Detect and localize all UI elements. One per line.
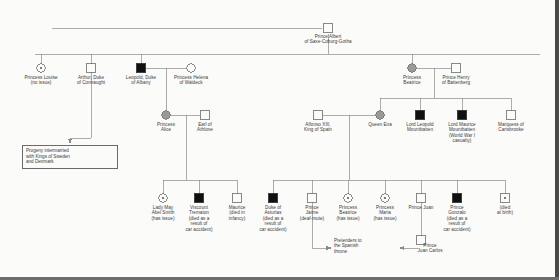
pedigree-symbol-alfonso [314, 111, 322, 119]
person-name-died_at_birth: (died at birth) [465, 205, 545, 216]
person-label-carisbrooke: Marquess of Carisbrooke [471, 122, 551, 133]
pedigree-symbol-jaime [308, 194, 316, 202]
pretenders-note: Pretenders to the Spanish throne [334, 238, 398, 254]
pedigree-symbol-athlone [201, 111, 209, 119]
person-label-helena: Princess Helena of Waldeck [151, 75, 231, 86]
pedigree-symbol-maurice_albany [233, 194, 241, 202]
carrier-dot-beatrice2 [347, 197, 349, 199]
carrier-dot-lady_may [162, 197, 164, 199]
page-edge-right [555, 0, 559, 280]
pedigree-symbol-carisbrooke [507, 111, 515, 119]
person-label-athlone: Earl of Athlone [165, 122, 245, 133]
pedigree-symbol-helena [187, 64, 195, 72]
person-name-juan_carlos: Prince Juan Carlos [390, 243, 470, 254]
person-name-henry: Prince Henry of Battenberg [416, 75, 496, 86]
pedigree-symbol-asturias [269, 194, 277, 202]
carrier-dot-died_at_birth [504, 197, 506, 199]
person-name-helena: Princess Helena of Waldeck [151, 75, 231, 86]
pedigree-symbol-henry [452, 64, 460, 72]
pedigree-symbol-beatrice [408, 64, 416, 72]
person-label-albert: Prince Albert of Saxe-Coburg-Gotha [288, 34, 368, 45]
person-name-albert: Prince Albert of Saxe-Coburg-Gotha [288, 34, 368, 45]
carrier-dot-louise [40, 67, 42, 69]
pedigree-symbol-alice [162, 111, 170, 119]
pedigree-symbol-maurice_mb [458, 111, 466, 119]
carrier-dot-maria [384, 197, 386, 199]
pedigree-symbol-leopold [137, 64, 145, 72]
pedigree-symbol-ena [376, 111, 384, 119]
pedigree-diagram: Prince Albert of Saxe-Coburg-GothaPrince… [0, 0, 559, 280]
pedigree-symbol-gonzalo [453, 194, 461, 202]
progeny-note-box: Progeny intermarried with Kings of Swede… [22, 145, 118, 169]
pedigree-symbol-albert [324, 24, 332, 32]
person-name-athlone: Earl of Athlone [165, 122, 245, 133]
person-label-juan_carlos: Prince Juan Carlos [390, 243, 470, 254]
person-note-gonzalo: (died as a result of car accident) [417, 216, 497, 232]
pedigree-symbol-juan [417, 194, 425, 202]
pedigree-symbol-leopold_mb [416, 111, 424, 119]
person-note-maria: (has issue) [345, 216, 425, 221]
person-name-carisbrooke: Marquess of Carisbrooke [471, 122, 551, 133]
person-label-henry: Prince Henry of Battenberg [416, 75, 496, 86]
pedigree-symbol-arthur [87, 64, 95, 72]
pedigree-symbol-trematon [195, 194, 203, 202]
person-label-died_at_birth: (died at birth) [465, 205, 545, 216]
person-note-maurice_mb: (World War I casualty) [422, 133, 502, 144]
